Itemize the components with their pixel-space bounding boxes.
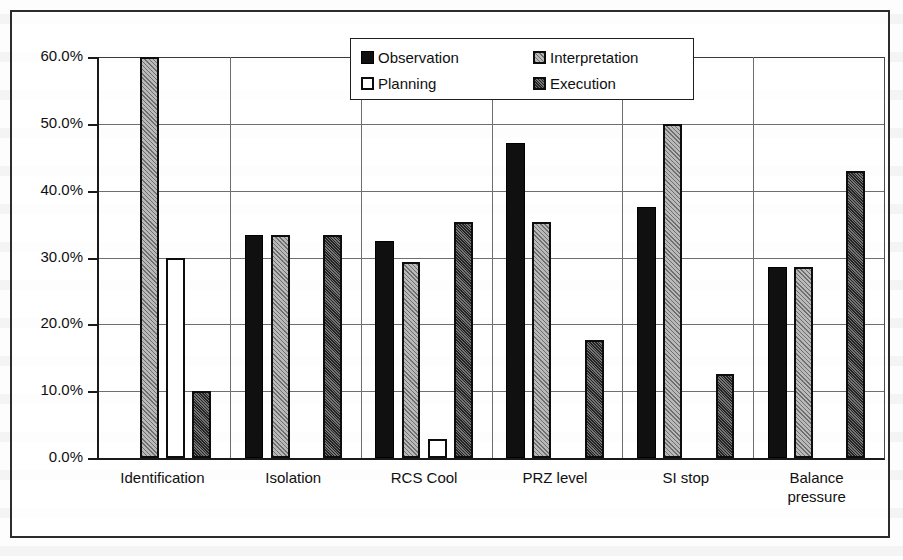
bar-execution-6[interactable] — [846, 171, 865, 458]
x-axis-category-label: Balancepressure — [751, 468, 882, 506]
x-axis-category-line1: PRZ level — [490, 468, 621, 487]
x-axis-category-line1: SI stop — [620, 468, 751, 487]
bar-interpretation-5[interactable] — [663, 124, 682, 458]
gridline-vertical — [622, 57, 623, 458]
x-axis-category-line1: Isolation — [228, 468, 359, 487]
gridline-vertical — [361, 57, 362, 458]
chart-legend: Observation Interpretation Planning Exec… — [350, 38, 694, 100]
y-axis-tick — [88, 458, 97, 460]
figure-frame: 60.0%50.0%40.0%30.0%20.0%10.0%0.0% Ident… — [10, 10, 890, 538]
bar-execution-1[interactable] — [192, 391, 211, 458]
y-axis-label: 40.0% — [11, 181, 83, 198]
legend-swatch-planning — [361, 77, 374, 90]
gridline-vertical — [492, 57, 493, 458]
bar-observation-4[interactable] — [506, 143, 525, 458]
bar-observation-5[interactable] — [637, 207, 656, 458]
gridline-vertical — [753, 57, 754, 458]
bar-observation-6[interactable] — [768, 267, 787, 458]
legend-row: Observation Interpretation — [361, 44, 693, 70]
x-axis-category-label: SI stop — [620, 468, 751, 487]
legend-item-observation[interactable]: Observation — [361, 49, 533, 66]
x-axis-category-label: Identification — [97, 468, 228, 487]
bar-observation-3[interactable] — [375, 241, 394, 458]
x-axis-category-label: RCS Cool — [359, 468, 490, 487]
legend-item-planning[interactable]: Planning — [361, 75, 533, 92]
legend-label-observation: Observation — [378, 49, 459, 66]
y-axis-label: 10.0% — [11, 381, 83, 398]
bar-interpretation-6[interactable] — [794, 267, 813, 458]
y-axis-tick — [88, 258, 97, 260]
x-axis-category-line1: Balance — [751, 468, 882, 487]
y-axis-label: 60.0% — [11, 47, 83, 64]
bar-execution-2[interactable] — [323, 235, 342, 458]
bar-execution-3[interactable] — [454, 222, 473, 458]
legend-label-execution: Execution — [550, 75, 616, 92]
y-axis-tick — [88, 124, 97, 126]
x-axis-category-line1: Identification — [97, 468, 228, 487]
y-axis-tick — [88, 391, 97, 393]
plot-area — [97, 57, 885, 460]
legend-swatch-interpretation — [533, 51, 546, 64]
bar-interpretation-4[interactable] — [532, 222, 551, 458]
bar-execution-5[interactable] — [716, 374, 735, 458]
legend-row: Planning Execution — [361, 70, 693, 96]
legend-item-execution[interactable]: Execution — [533, 75, 616, 92]
y-axis-tick — [88, 191, 97, 193]
bar-planning-1[interactable] — [166, 258, 185, 459]
bar-interpretation-2[interactable] — [271, 235, 290, 458]
legend-label-interpretation: Interpretation — [550, 49, 638, 66]
x-axis-category-label: PRZ level — [490, 468, 621, 487]
x-axis-category-line2: pressure — [751, 487, 882, 506]
x-axis-category-line1: RCS Cool — [359, 468, 490, 487]
gridline-vertical — [230, 57, 231, 458]
legend-swatch-execution — [533, 77, 546, 90]
y-axis-label: 20.0% — [11, 314, 83, 331]
y-axis-label: 50.0% — [11, 114, 83, 131]
legend-item-interpretation[interactable]: Interpretation — [533, 49, 638, 66]
bar-observation-2[interactable] — [245, 235, 264, 458]
bar-interpretation-3[interactable] — [402, 262, 421, 458]
x-axis-category-label: Isolation — [228, 468, 359, 487]
y-axis-tick — [88, 57, 97, 59]
y-axis-label: 0.0% — [11, 448, 83, 465]
bar-interpretation-1[interactable] — [140, 57, 159, 458]
legend-label-planning: Planning — [378, 75, 436, 92]
bar-planning-3[interactable] — [428, 439, 447, 458]
bar-execution-4[interactable] — [585, 340, 604, 458]
y-axis-label: 30.0% — [11, 248, 83, 265]
legend-swatch-observation — [361, 51, 374, 64]
y-axis-tick — [88, 324, 97, 326]
